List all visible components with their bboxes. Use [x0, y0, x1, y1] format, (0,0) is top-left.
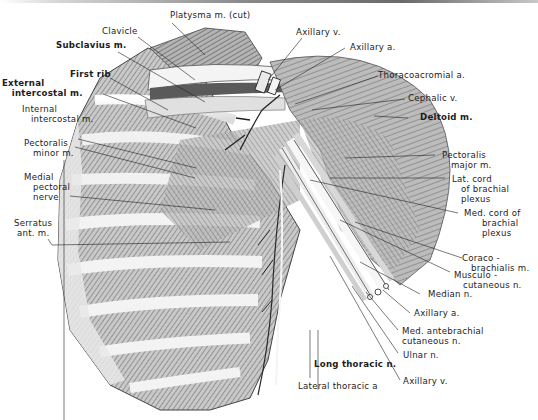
label-axillary-a-top: Axillary a.: [350, 42, 396, 52]
clavicle-region: [145, 28, 292, 118]
label-long-thoracic: Long thoracic n.: [314, 359, 396, 369]
label-axillary-v-bottom: Axillary v.: [403, 376, 448, 386]
label-median-n: Median n.: [428, 289, 472, 299]
label-thoracoacromial-a: Thoracoacromial a.: [378, 70, 465, 80]
label-ulnar-n: Ulnar n.: [403, 350, 439, 360]
anatomical-illustration: [0, 0, 538, 420]
label-deltoid: Deltoid m.: [420, 112, 473, 122]
label-cephalic-v: Cephalic v.: [408, 93, 458, 103]
label-clavicle: Clavicle: [102, 26, 138, 36]
label-medial-pectoral-nerve: Medial pectoral nerve: [24, 172, 70, 202]
label-axillary-v-top: Axillary v.: [296, 27, 341, 37]
label-pectoralis-minor: Pectoralis minor m.: [24, 138, 74, 158]
label-pectoralis-major: Pectoralis major m.: [442, 150, 492, 170]
label-med-antebrachial: Med. antebrachial cutaneous n.: [402, 326, 484, 346]
label-musculocutaneous: Musculo - cutaneous n.: [454, 270, 522, 290]
label-subclavius: Subclavius m.: [56, 40, 127, 50]
label-med-cord: Med. cord of brachial plexus: [464, 208, 520, 238]
label-platysma: Platysma m. (cut): [170, 10, 250, 20]
label-internal-intercostal: Internal intercostal m.: [22, 104, 94, 124]
label-lat-cord: Lat. cord of brachial plexus: [452, 174, 509, 204]
label-external-intercostal: External intercostal m.: [2, 78, 83, 98]
label-axillary-a-bottom: Axillary a.: [414, 308, 460, 318]
label-serratus-anterior: Serratus ant. m.: [14, 218, 52, 238]
label-lateral-thoracic: Lateral thoracic a: [298, 381, 378, 391]
